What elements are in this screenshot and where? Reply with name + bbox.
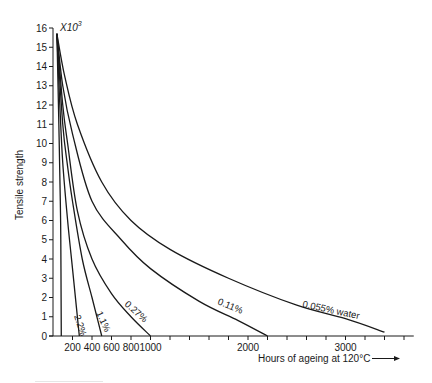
y-tick-label: 12 [36,100,48,111]
y-multiplier-label: X103 [59,20,82,33]
y-tick-label: 1 [41,311,47,322]
y-tick-label: 3 [41,273,47,284]
x-tick-label: 1000 [139,342,162,353]
x-axis: 200400600800100020003000 [49,336,414,353]
y-tick-label: 14 [36,61,48,72]
curve-1.1 [57,34,102,336]
x-tick-label: 2000 [237,342,260,353]
y-tick-label: 2 [41,292,47,303]
x-axis-title: Hours of ageing at 120°C [258,353,370,364]
y-tick-label: 7 [41,196,47,207]
y-tick-label: 11 [37,119,48,130]
y-tick-label: 16 [36,23,48,34]
curve-labels: 2.2% 1.1% 0.27% 0.11% 0.055% water [72,296,361,338]
curve-0.11 [57,34,268,336]
curve-label-0.055-water: 0.055% water [302,298,361,321]
footer-rule [35,381,103,382]
y-tick-label: 10 [36,138,48,149]
multiplier-base: X10 [59,22,78,33]
arrow-right-icon [372,356,400,361]
multiplier-exponent: 3 [78,20,82,27]
y-tick-label: 5 [41,234,47,245]
x-tick-label: 600 [103,342,120,353]
curves [57,34,385,336]
y-axis: 012345678910111213141516 [36,23,53,342]
y-tick-label: 13 [36,80,48,91]
y-tick-label: 0 [41,331,47,342]
x-tick-label: 3000 [334,342,357,353]
y-tick-label: 9 [41,157,47,168]
curve-0.055water [57,34,385,332]
x-tick-label: 400 [84,342,101,353]
curve-label-1.1: 1.1% [94,309,113,334]
y-tick-label: 15 [36,42,48,53]
x-tick-label: 200 [64,342,81,353]
y-tick-label: 4 [41,254,47,265]
y-tick-label: 8 [41,177,47,188]
y-axis-title: Tensile strength [14,150,25,220]
curve-label-2.2: 2.2% [72,313,89,338]
y-tick-label: 6 [41,215,47,226]
x-tick-label: 800 [123,342,140,353]
tensile-strength-chart: 012345678910111213141516 200400600800100… [0,0,432,383]
